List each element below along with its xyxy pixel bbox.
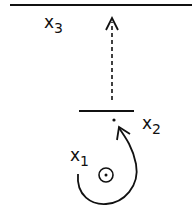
- label-x2-base: x: [142, 113, 152, 133]
- label-x2: x2: [142, 115, 161, 136]
- diagram-drawing: [0, 0, 192, 214]
- label-x3-sub: 3: [54, 20, 63, 36]
- label-x2-sub: 2: [152, 121, 161, 137]
- label-x3-base: x: [44, 12, 54, 32]
- circled-dot-icon: [99, 168, 113, 182]
- label-x1-base: x: [70, 145, 80, 165]
- label-x3: x3: [44, 14, 63, 35]
- label-x1: x1: [70, 147, 89, 168]
- point-dot: [112, 118, 115, 121]
- label-x1-sub: 1: [80, 153, 89, 169]
- dashed-up-arrow: [106, 18, 118, 100]
- diagram-canvas: x3 x2 x1: [0, 0, 192, 214]
